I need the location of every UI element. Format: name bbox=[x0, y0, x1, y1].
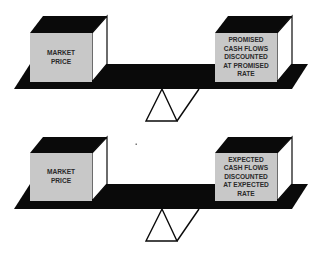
label-line: PRICE bbox=[30, 177, 92, 186]
label-line: AT EXPECTED bbox=[215, 181, 277, 190]
label-line: CASH FLOWS bbox=[215, 45, 277, 54]
label-line: MARKET bbox=[30, 49, 92, 58]
label-line: DISCOUNTED bbox=[215, 53, 277, 62]
label-line: PRICE bbox=[30, 58, 92, 67]
label-line: EXPECTED bbox=[215, 156, 277, 165]
fulcrum bbox=[146, 209, 199, 241]
right-box-label-bottom: EXPECTED CASH FLOWS DISCOUNTED AT EXPECT… bbox=[215, 153, 277, 201]
label-line: DISCOUNTED bbox=[215, 173, 277, 182]
label-line: MARKET bbox=[30, 168, 92, 177]
left-box-label-bottom: MARKET PRICE bbox=[30, 153, 92, 201]
left-box-label-top: MARKET PRICE bbox=[30, 33, 92, 82]
right-box-label-top: PROMISED CASH FLOWS DISCOUNTED AT PROMIS… bbox=[215, 33, 277, 82]
label-line: RATE bbox=[215, 190, 277, 199]
label-line: CASH FLOWS bbox=[215, 164, 277, 173]
fulcrum bbox=[146, 89, 199, 121]
label-line: AT PROMISED bbox=[215, 62, 277, 71]
label-line: RATE bbox=[215, 70, 277, 79]
dust-speck bbox=[136, 144, 138, 146]
label-line: PROMISED bbox=[215, 36, 277, 45]
